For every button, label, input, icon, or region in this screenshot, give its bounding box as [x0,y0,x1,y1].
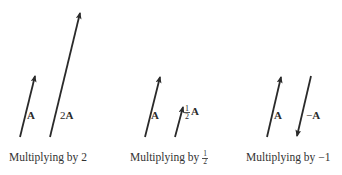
vector-half-a-arrow [175,107,183,137]
fraction-denominator: 2 [184,113,190,120]
vector-a-arrow [267,77,281,137]
vector-diagram [0,0,342,175]
caption-multiply-by-2: Multiplying by 2 [9,151,87,163]
vector-a-label: A [274,109,282,121]
caption-multiply-by-half: Multiplying by 12 [130,151,209,165]
fraction-denominator: 2 [202,159,208,166]
fraction: 12 [202,151,208,165]
vector-a-label: A [151,109,159,121]
vector-symbol: A [312,109,320,121]
panel-multiply-by-half [145,77,183,137]
caption-multiply-by-minus-1: Multiplying by −1 [246,151,330,163]
vector-a-label: A [27,109,35,121]
vector-minus-a-arrow [297,76,311,136]
vector-a-arrow [20,76,35,137]
fraction: 12 [184,105,190,120]
vector-2a-label: 2A [60,109,73,121]
vector-half-a-label: 12A [184,105,199,120]
vector-a-arrow [145,77,160,137]
caption-text: Multiplying by [130,151,199,163]
vector-symbol: A [66,109,74,121]
vector-symbol: A [191,105,199,117]
vector-minus-a-label: −A [306,109,320,121]
panel-multiply-by-minus-1 [267,76,311,137]
